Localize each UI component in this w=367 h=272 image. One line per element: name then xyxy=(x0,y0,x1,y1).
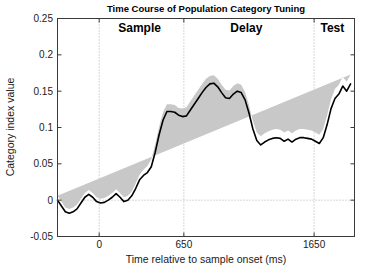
y-tick-label-0.15: 0.15 xyxy=(34,86,54,97)
chart-figure: Time Course of Population Category Tunin… xyxy=(0,0,367,272)
y-tick-label--0.05: -0.05 xyxy=(30,231,53,242)
chart-title: Time Course of Population Category Tunin… xyxy=(107,3,305,14)
epoch-label-test: Test xyxy=(320,21,344,35)
y-tick-label-0.2: 0.2 xyxy=(39,49,53,60)
y-tick-label-0.05: 0.05 xyxy=(34,158,54,169)
epoch-label-sample: Sample xyxy=(118,21,161,35)
y-axis-title: Category index value xyxy=(4,78,16,177)
x-tick-label-0: 0 xyxy=(96,239,102,250)
epoch-label-delay: Delay xyxy=(230,21,262,35)
line-chart: Time Course of Population Category Tunin… xyxy=(0,0,367,272)
y-tick-label-0.1: 0.1 xyxy=(39,122,53,133)
x-tick-label-650: 650 xyxy=(176,239,193,250)
x-axis-title: Time relative to sample onset (ms) xyxy=(126,253,287,265)
x-tick-label-1650: 1650 xyxy=(303,239,326,250)
y-tick-label-0: 0 xyxy=(47,195,53,206)
y-tick-label-0.25: 0.25 xyxy=(34,13,54,24)
